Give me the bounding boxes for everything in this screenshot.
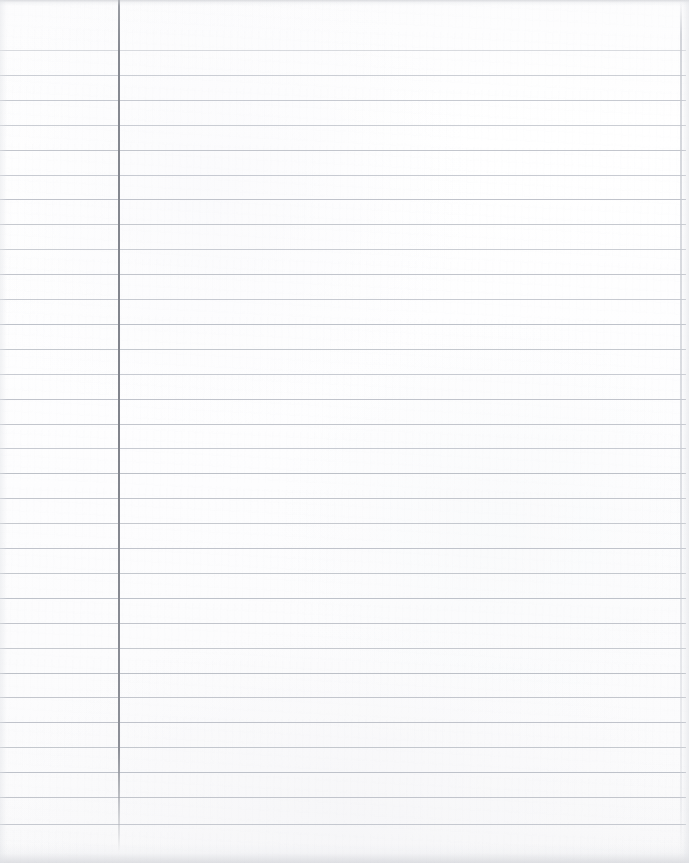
rule-line	[0, 249, 686, 250]
rule-line	[0, 797, 686, 798]
rule-line	[0, 150, 686, 151]
rule-line	[0, 722, 686, 723]
rule-line	[0, 824, 686, 825]
rule-line	[0, 75, 686, 76]
notebook-paper-page	[0, 0, 689, 863]
rule-line	[0, 473, 686, 474]
rule-line	[0, 175, 686, 176]
rule-line	[0, 224, 686, 225]
rule-line	[0, 623, 686, 624]
rule-line	[0, 374, 686, 375]
rule-line	[0, 125, 686, 126]
rule-line	[0, 648, 686, 649]
rule-line	[0, 274, 686, 275]
horizontal-ruling-layer	[0, 0, 689, 863]
rule-line	[0, 772, 686, 773]
scan-shadow-left	[0, 0, 7, 863]
rule-line	[0, 548, 686, 549]
rule-line	[0, 349, 686, 350]
rule-line	[0, 448, 686, 449]
scan-shadow-top	[0, 0, 689, 6]
scan-shadow-right	[681, 0, 689, 863]
rule-line	[0, 424, 686, 425]
rule-line	[0, 747, 686, 748]
rule-line	[0, 523, 686, 524]
rule-line	[0, 299, 686, 300]
vertical-margin-rule	[118, 0, 120, 852]
rule-line	[0, 673, 686, 674]
rule-line	[0, 50, 686, 51]
rule-line	[0, 573, 686, 574]
rule-line	[0, 100, 686, 101]
rule-line	[0, 399, 686, 400]
scan-shadow-bottom	[0, 843, 689, 863]
rule-line	[0, 199, 686, 200]
rule-line	[0, 324, 686, 325]
rule-line	[0, 498, 686, 499]
rule-line	[0, 697, 686, 698]
rule-line	[0, 598, 686, 599]
